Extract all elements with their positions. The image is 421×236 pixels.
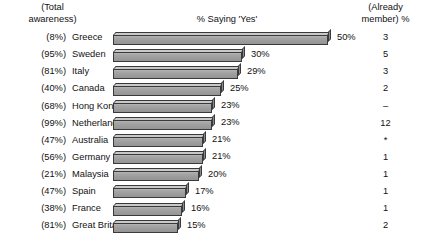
- bar-end-cap: [238, 63, 241, 76]
- country-label: Spain: [72, 186, 96, 196]
- country-label: France: [72, 203, 101, 213]
- bar-value-label: 15%: [187, 220, 206, 230]
- bar-value-label: 21%: [212, 134, 231, 144]
- bar: [113, 137, 203, 147]
- bar-value-label: 29%: [247, 66, 266, 76]
- bar: [113, 120, 212, 130]
- bar-end-cap: [221, 80, 224, 93]
- bar-container: [113, 203, 186, 216]
- already-member-value: –: [350, 101, 421, 111]
- chart-rows: (8%)Greece50%3(95%)Sweden30%5(81%)Italy2…: [0, 30, 421, 235]
- horizontal-bar-chart: (Total awareness) % Saying 'Yes' (Alread…: [0, 0, 421, 236]
- bar: [113, 206, 182, 216]
- bar-value-label: 30%: [251, 49, 270, 59]
- already-member-value: 1: [350, 186, 421, 196]
- chart-row: (99%)Netherlands23%12: [0, 115, 421, 132]
- bar-end-cap: [203, 131, 206, 144]
- already-member-value: 3: [350, 32, 421, 42]
- bar-container: [113, 32, 332, 45]
- bar-end-cap: [242, 46, 245, 59]
- total-awareness-value: (56%): [0, 152, 66, 162]
- bar-container: [113, 151, 207, 164]
- country-label: Greece: [72, 32, 103, 42]
- total-awareness-value: (40%): [0, 83, 66, 93]
- total-awareness-value: (81%): [0, 66, 66, 76]
- chart-row: (38%)France16%1: [0, 201, 421, 218]
- bar-end-cap: [182, 200, 185, 213]
- chart-row: (81%)Italy29%3: [0, 64, 421, 81]
- total-awareness-value: (99%): [0, 118, 66, 128]
- already-member-header-line2: member) %: [350, 14, 421, 26]
- bar-end-cap: [212, 97, 215, 110]
- country-label: Australia: [72, 135, 108, 145]
- country-label: Hong Kong: [72, 101, 119, 111]
- already-member-value: 1: [350, 203, 421, 213]
- bar: [113, 171, 199, 181]
- bar-value-label: 25%: [230, 83, 249, 93]
- bar-end-cap: [178, 217, 181, 230]
- country-label: Canada: [72, 83, 105, 93]
- bar: [113, 223, 178, 233]
- bar-container: [113, 49, 246, 62]
- total-awareness-value: (81%): [0, 220, 66, 230]
- bar: [113, 35, 328, 45]
- chart-row: (21%)Malaysia20%1: [0, 167, 421, 184]
- bar: [113, 103, 212, 113]
- bar: [113, 188, 186, 198]
- total-awareness-value: (21%): [0, 169, 66, 179]
- chart-row: (8%)Greece50%3: [0, 30, 421, 47]
- already-member-header: (Already member) %: [350, 2, 421, 25]
- bar: [113, 86, 221, 96]
- country-label: Malaysia: [72, 169, 109, 179]
- total-awareness-value: (47%): [0, 186, 66, 196]
- chart-row: (47%)Spain17%1: [0, 184, 421, 201]
- already-member-value: 2: [350, 220, 421, 230]
- bar-value-label: 23%: [221, 117, 240, 127]
- bar-end-cap: [186, 182, 189, 195]
- already-member-value: 1: [350, 169, 421, 179]
- bar-container: [113, 134, 207, 147]
- chart-row: (68%)Hong Kong23%–: [0, 98, 421, 115]
- already-member-header-line1: (Already: [350, 2, 421, 14]
- bar: [113, 52, 242, 62]
- total-awareness-value: (38%): [0, 203, 66, 213]
- total-awareness-value: (8%): [0, 32, 66, 42]
- already-member-value: 1: [350, 152, 421, 162]
- bar-value-label: 20%: [208, 169, 227, 179]
- chart-row: (47%)Australia21%*: [0, 133, 421, 150]
- total-awareness-header-line1: (Total: [0, 2, 105, 14]
- bar-value-label: 21%: [212, 151, 231, 161]
- chart-row: (95%)Sweden30%5: [0, 47, 421, 64]
- bar-end-cap: [203, 148, 206, 161]
- chart-row: (40%)Canada25%2: [0, 81, 421, 98]
- bar-container: [113, 117, 216, 130]
- chart-row: (81%)Great Britain15%2: [0, 218, 421, 235]
- total-awareness-header-line2: awareness): [0, 14, 105, 26]
- country-label: Sweden: [72, 49, 106, 59]
- bar-container: [113, 66, 242, 79]
- total-awareness-value: (68%): [0, 101, 66, 111]
- bar-container: [113, 100, 216, 113]
- bar-container: [113, 83, 225, 96]
- country-label: Italy: [72, 66, 89, 76]
- bar: [113, 154, 203, 164]
- already-member-value: *: [350, 135, 421, 145]
- bar-container: [113, 220, 182, 233]
- already-member-value: 3: [350, 66, 421, 76]
- bar-value-label: 17%: [195, 186, 214, 196]
- bar-container: [113, 168, 203, 181]
- chart-row: (56%)Germany21%1: [0, 150, 421, 167]
- bar-container: [113, 185, 190, 198]
- already-member-value: 5: [350, 49, 421, 59]
- chart-title: % Saying 'Yes': [113, 14, 341, 26]
- bar-end-cap: [212, 114, 215, 127]
- total-awareness-value: (47%): [0, 135, 66, 145]
- bar-end-cap: [328, 29, 331, 42]
- bar-value-label: 23%: [221, 100, 240, 110]
- total-awareness-header: (Total awareness): [0, 2, 105, 25]
- already-member-value: 2: [350, 83, 421, 93]
- bar: [113, 69, 238, 79]
- country-label: Germany: [72, 152, 110, 162]
- chart-header: (Total awareness) % Saying 'Yes' (Alread…: [0, 2, 421, 28]
- already-member-value: 12: [350, 118, 421, 128]
